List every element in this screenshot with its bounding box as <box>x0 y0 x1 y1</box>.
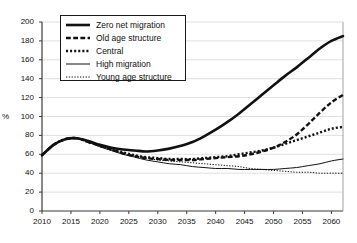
x-tick-label: 2055 <box>287 217 317 226</box>
x-tick-label: 2030 <box>143 217 173 226</box>
legend-item-label: Central <box>96 46 123 56</box>
legend-item[interactable]: Young age structure <box>65 71 181 83</box>
x-tick-label: 2035 <box>172 217 202 226</box>
x-tick-label: 2010 <box>27 217 57 226</box>
legend-item[interactable]: High migration <box>65 58 181 70</box>
chart-legend: Zero net migrationOld age structureCentr… <box>60 15 186 81</box>
legend-line-swatch-icon <box>65 46 91 56</box>
legend-item[interactable]: Old age structure <box>65 32 181 44</box>
x-tick-label: 2025 <box>114 217 144 226</box>
y-tick-label: 100 <box>8 112 34 121</box>
x-tick-label: 2020 <box>85 217 115 226</box>
legend-item[interactable]: Zero net migration <box>65 19 181 31</box>
legend-item-label: Old age structure <box>96 33 161 43</box>
series-line <box>42 95 343 160</box>
y-tick-label: 20 <box>8 187 34 196</box>
legend-item-label: High migration <box>96 59 151 69</box>
legend-item[interactable]: Central <box>65 45 181 57</box>
legend-line-swatch-icon <box>65 59 91 69</box>
x-tick-label: 2060 <box>316 217 346 226</box>
y-tick-label: 120 <box>8 93 34 102</box>
x-tick-label: 2050 <box>259 217 289 226</box>
y-tick-label: 60 <box>8 149 34 158</box>
y-tick-label: 200 <box>8 17 34 26</box>
x-tick-label: 2015 <box>56 217 86 226</box>
y-tick-label: 80 <box>8 130 34 139</box>
y-tick-label: 140 <box>8 74 34 83</box>
legend-line-swatch-icon <box>65 33 91 43</box>
legend-item-label: Young age structure <box>96 72 172 82</box>
y-tick-label: 40 <box>8 168 34 177</box>
y-tick-label: 0 <box>8 206 34 215</box>
dependency-ratio-line-chart: % 020406080100120140160180200 2010201520… <box>0 0 357 243</box>
y-tick-label: 160 <box>8 55 34 64</box>
y-tick-label: 180 <box>8 36 34 45</box>
x-tick-label: 2040 <box>201 217 231 226</box>
legend-item-label: Zero net migration <box>96 20 165 30</box>
x-tick-label: 2045 <box>230 217 260 226</box>
legend-line-swatch-icon <box>65 72 91 82</box>
legend-line-swatch-icon <box>65 20 91 30</box>
